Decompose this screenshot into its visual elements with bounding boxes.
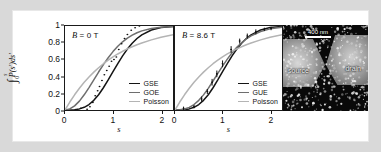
speckle-dot bbox=[330, 46, 332, 48]
data-point bbox=[113, 59, 115, 61]
speckle-dot bbox=[364, 92, 365, 93]
data-point bbox=[92, 102, 94, 104]
speckle-dot bbox=[312, 102, 315, 105]
data-point bbox=[255, 31, 257, 33]
chart-panel-b86: B = 8.6 T GSE GUE Poisson bbox=[174, 25, 283, 111]
x-tick-mark bbox=[271, 111, 272, 114]
y-tick-label: 0.4 bbox=[48, 72, 60, 82]
speckle-dot bbox=[343, 83, 344, 84]
speckle-dot bbox=[287, 37, 288, 38]
speckle-dot bbox=[315, 81, 318, 84]
source-label: source bbox=[288, 67, 309, 74]
speckle-dot bbox=[297, 103, 299, 105]
data-point bbox=[121, 43, 123, 45]
speckle-dot bbox=[355, 86, 356, 87]
x-tick-label: 2 bbox=[269, 115, 274, 125]
speckle-dot bbox=[316, 109, 317, 110]
speckle-dot bbox=[355, 92, 358, 95]
speckle-dot bbox=[302, 59, 303, 60]
x-axis-b0: 0 1 2 s bbox=[64, 111, 174, 133]
speckle-dot bbox=[343, 60, 344, 61]
speckle-dot bbox=[362, 26, 365, 29]
speckle-dot bbox=[318, 99, 319, 100]
y-tick-label: 0.8 bbox=[48, 37, 60, 47]
speckle-dot bbox=[352, 84, 355, 87]
speckle-dot bbox=[325, 56, 327, 58]
speckle-dot bbox=[343, 28, 345, 30]
speckle-dot bbox=[307, 80, 308, 81]
speckle-dot bbox=[338, 97, 340, 99]
speckle-dot bbox=[343, 73, 345, 75]
speckle-dot bbox=[359, 43, 362, 46]
legend-item: GSE bbox=[129, 79, 169, 88]
speckle-dot bbox=[358, 56, 359, 57]
data-point bbox=[86, 108, 88, 110]
speckle-dot bbox=[305, 74, 306, 75]
speckle-dot bbox=[330, 95, 331, 96]
speckle-dot bbox=[358, 96, 360, 98]
speckle-dot bbox=[323, 83, 325, 85]
speckle-dot bbox=[356, 52, 358, 54]
figure-inner: ∫s0 P(s')ds' 1 0.8 0.6 0.4 0.2 0 B = 0 T bbox=[13, 11, 368, 141]
speckle-dot bbox=[307, 51, 309, 53]
speckle-dot bbox=[352, 53, 354, 55]
panel-label-b0: B = 0 T bbox=[72, 30, 98, 40]
speckle-dot bbox=[306, 53, 308, 55]
speckle-dot bbox=[317, 85, 319, 87]
legend-swatch-poisson bbox=[238, 101, 249, 102]
speckle-dot bbox=[359, 46, 361, 48]
speckle-dot bbox=[285, 38, 287, 40]
speckle-dot bbox=[356, 48, 358, 50]
speckle-dot bbox=[356, 50, 358, 52]
speckle-dot bbox=[299, 34, 301, 36]
speckle-dot bbox=[337, 33, 340, 36]
speckle-dot bbox=[349, 54, 351, 56]
speckle-dot bbox=[323, 42, 325, 44]
y-tick-label: 1 bbox=[55, 20, 60, 30]
data-point bbox=[239, 40, 241, 42]
speckle-dot bbox=[366, 101, 368, 103]
speckle-dot bbox=[330, 99, 332, 101]
speckle-dot bbox=[339, 79, 341, 81]
speckle-dot bbox=[316, 92, 318, 94]
data-point bbox=[222, 63, 224, 65]
speckle-dot bbox=[294, 55, 296, 57]
speckle-dot bbox=[349, 44, 350, 45]
speckle-dot bbox=[316, 64, 318, 66]
speckle-dot bbox=[336, 96, 337, 97]
legend-label: GSE bbox=[252, 80, 267, 87]
data-point bbox=[130, 29, 132, 31]
speckle-dot bbox=[329, 106, 332, 109]
speckle-dot bbox=[284, 34, 285, 35]
speckle-dot bbox=[327, 45, 329, 47]
speckle-dot bbox=[302, 25, 304, 27]
speckle-dot bbox=[292, 45, 294, 47]
speckle-dot bbox=[285, 71, 286, 72]
speckle-dot bbox=[304, 84, 306, 86]
speckle-dot bbox=[302, 45, 305, 48]
speckle-dot bbox=[329, 69, 331, 71]
speckle-dot bbox=[358, 107, 359, 108]
speckle-dot bbox=[355, 33, 356, 34]
speckle-dot bbox=[353, 78, 354, 79]
speckle-dot bbox=[361, 26, 362, 27]
data-point bbox=[201, 98, 203, 100]
data-point bbox=[103, 74, 105, 76]
speckle-dot bbox=[364, 106, 366, 108]
speckle-dot bbox=[325, 63, 327, 65]
legend-item: Poisson bbox=[129, 97, 169, 106]
speckle-dot bbox=[291, 94, 293, 96]
speckle-dot bbox=[286, 85, 289, 88]
speckle-dot bbox=[347, 32, 348, 33]
speckle-dot bbox=[342, 45, 343, 46]
speckle-dot bbox=[342, 86, 344, 88]
speckle-dot bbox=[288, 54, 290, 56]
speckle-dot bbox=[363, 65, 364, 66]
speckle-dot bbox=[331, 83, 333, 85]
speckle-dot bbox=[287, 91, 288, 92]
data-point bbox=[230, 49, 232, 51]
speckle-dot bbox=[323, 68, 326, 71]
speckle-dot bbox=[355, 56, 357, 58]
data-point bbox=[108, 66, 110, 68]
speckle-dot bbox=[329, 63, 331, 65]
